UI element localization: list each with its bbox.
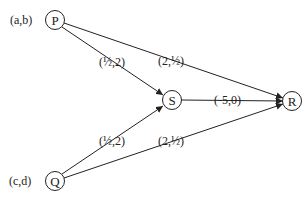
- edge-label-p-s: (½,2): [99, 55, 125, 69]
- edge-label-q-s: (½,2): [99, 134, 125, 148]
- node-annotation-p: (a,b): [10, 13, 32, 27]
- network-diagram: (½,2) (2,½) (½,2) (2,½) (-5,0) P (a,b) Q…: [0, 0, 308, 202]
- node-r: R: [283, 92, 302, 111]
- node-label-p: P: [51, 13, 58, 28]
- node-q: Q: [46, 172, 65, 191]
- edge-label-p-r: (2,½): [158, 54, 184, 68]
- edge-label-q-r: (2,½): [158, 134, 184, 148]
- node-p: P: [46, 11, 65, 30]
- edge-label-s-r: (-5,0): [214, 93, 241, 107]
- node-label-s: S: [168, 93, 175, 108]
- node-annotation-q: (c,d): [9, 174, 31, 188]
- node-label-q: Q: [50, 174, 60, 189]
- node-label-r: R: [288, 94, 297, 109]
- node-s: S: [163, 91, 182, 110]
